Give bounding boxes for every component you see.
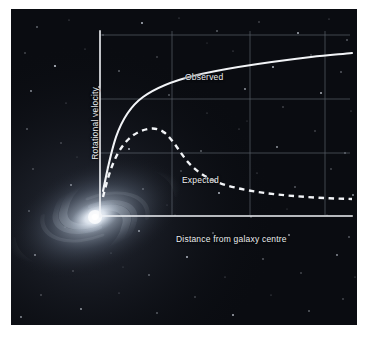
figure-root: Observed Expected Distance from galaxy c…: [0, 0, 368, 339]
y-axis-label: Rotational velocity: [90, 87, 100, 160]
rotation-curve-plot: [11, 9, 357, 325]
x-axis-label: Distance from galaxy centre: [176, 234, 287, 244]
observed-curve-label: Observed: [185, 72, 223, 82]
expected-curve: [103, 129, 352, 199]
plot-axes: [100, 31, 352, 217]
expected-curve-label: Expected: [182, 175, 219, 185]
starfield-plate: Observed Expected Distance from galaxy c…: [11, 9, 357, 325]
plot-gridlines: [100, 31, 350, 215]
observed-curve: [103, 53, 352, 191]
